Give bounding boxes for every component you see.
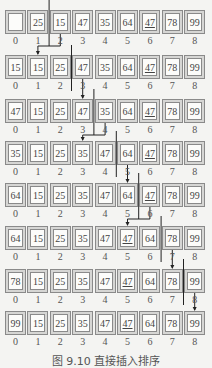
index-label: 8: [184, 124, 205, 135]
cell-value: 78: [165, 229, 180, 247]
array-cell: 25: [50, 141, 71, 165]
index-label: 6: [139, 208, 160, 219]
index-label: 3: [72, 80, 93, 91]
cell-value: 47: [142, 58, 157, 76]
array-cell: 99: [5, 311, 26, 335]
array-cell: 35: [5, 141, 26, 165]
cell-value: 47: [8, 102, 23, 120]
figure-caption: 图 9.10 直接插入排序: [0, 352, 212, 368]
index-label: 1: [27, 251, 48, 262]
cell-value: 47: [120, 314, 135, 332]
index-label: 2: [50, 294, 71, 305]
cell-value: 99: [187, 272, 202, 290]
array-cell: 47: [139, 10, 160, 34]
index-label: 1: [27, 336, 48, 347]
array-cell: 99: [184, 55, 205, 79]
cell-value: 25: [53, 58, 68, 76]
cell-value: 99: [8, 314, 23, 332]
cell-value: 78: [165, 272, 180, 290]
cell-value: 99: [187, 314, 202, 332]
array-cell: 64: [117, 10, 138, 34]
index-label: 6: [139, 294, 160, 305]
index-label: 1: [27, 80, 48, 91]
array-cell: 47: [95, 183, 116, 207]
index-label: 8: [184, 35, 205, 46]
index-label: 0: [5, 35, 26, 46]
index-label: 6: [139, 124, 160, 135]
array-cell: 78: [162, 311, 183, 335]
cell-value: 25: [53, 102, 68, 120]
cell-value: 47: [98, 314, 113, 332]
index-label: 0: [5, 294, 26, 305]
index-label: 0: [5, 80, 26, 91]
cell-value: 99: [187, 229, 202, 247]
index-label: 8: [184, 208, 205, 219]
array-cell: 78: [162, 183, 183, 207]
cell-value: 47: [98, 144, 113, 162]
index-label: 3: [72, 166, 93, 177]
index-label: 7: [162, 35, 183, 46]
index-label: 3: [72, 336, 93, 347]
cell-value: 25: [30, 13, 45, 31]
array-cell: 47: [117, 226, 138, 250]
index-label: 5: [117, 166, 138, 177]
cell-value: 99: [187, 58, 202, 76]
array-cell: 47: [139, 55, 160, 79]
index-label: 8: [184, 166, 205, 177]
cell-value: 64: [142, 314, 157, 332]
index-label: 8: [184, 251, 205, 262]
cell-value: 64: [8, 229, 23, 247]
index-label: 3: [72, 208, 93, 219]
array-cell: 25: [50, 55, 71, 79]
cell-value: 64: [120, 58, 135, 76]
index-label: 0: [5, 251, 26, 262]
cell-value: 47: [75, 58, 90, 76]
array-cell: 35: [95, 10, 116, 34]
array-cell: 64: [5, 226, 26, 250]
array-cell: 47: [139, 141, 160, 165]
array-cell: 15: [5, 55, 26, 79]
cell-value: 35: [98, 58, 113, 76]
array-cell: 99: [184, 141, 205, 165]
array-cell: 78: [162, 10, 183, 34]
index-label: 5: [117, 80, 138, 91]
array-cell: 47: [117, 269, 138, 293]
array-cell: 15: [27, 269, 48, 293]
index-label: 6: [139, 336, 160, 347]
index-label: 1: [27, 166, 48, 177]
array-cell: 35: [72, 226, 93, 250]
cell-value: 35: [98, 13, 113, 31]
array-cell: 47: [95, 311, 116, 335]
array-cell: 64: [117, 183, 138, 207]
cell-value: 78: [165, 13, 180, 31]
array-cell: 15: [27, 141, 48, 165]
cell-value: 15: [30, 186, 45, 204]
index-label: 7: [162, 251, 183, 262]
index-label: 2: [50, 251, 71, 262]
cell-value: 25: [53, 186, 68, 204]
cell-value: 35: [75, 186, 90, 204]
array-cell: 25: [50, 269, 71, 293]
cell-value: 47: [75, 13, 90, 31]
array-cell: 15: [27, 99, 48, 123]
array-cell: 47: [95, 226, 116, 250]
cell-value: 15: [30, 58, 45, 76]
index-label: 5: [117, 208, 138, 219]
array-cell: 99: [184, 99, 205, 123]
cell-value: 47: [142, 102, 157, 120]
index-label: 7: [162, 124, 183, 135]
index-label: 7: [162, 166, 183, 177]
array-cell: 64: [139, 311, 160, 335]
array-cell: 35: [72, 141, 93, 165]
array-cell: 35: [72, 311, 93, 335]
array-cell: 25: [50, 311, 71, 335]
index-label: 1: [27, 208, 48, 219]
cell-value: 78: [165, 144, 180, 162]
cell-value: 78: [165, 186, 180, 204]
array-cell: 35: [72, 269, 93, 293]
cell-value: 25: [53, 229, 68, 247]
array-cell: 99: [184, 269, 205, 293]
cell-value: 15: [30, 314, 45, 332]
index-label: 7: [162, 294, 183, 305]
